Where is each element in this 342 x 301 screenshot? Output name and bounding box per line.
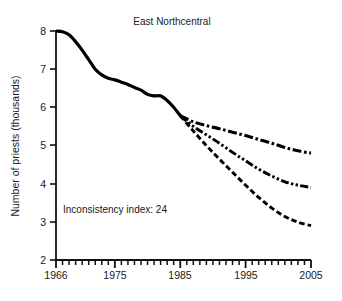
y-tick-label: 5: [40, 139, 46, 151]
y-tick-label: 6: [40, 101, 46, 113]
y-tick-label: 2: [40, 254, 46, 266]
y-tick-label: 3: [40, 216, 46, 228]
line-chart: East Northcentral Number of priests (tho…: [0, 0, 342, 301]
chart-container: East Northcentral Number of priests (tho…: [0, 0, 342, 301]
x-tick-label: 1975: [103, 269, 127, 281]
x-tick-label: 1995: [234, 269, 258, 281]
y-tick-label: 4: [40, 178, 46, 190]
chart-background: [0, 0, 342, 301]
chart-title: East Northcentral: [133, 16, 210, 27]
y-tick-label: 7: [40, 63, 46, 75]
x-tick-label: 1966: [44, 269, 68, 281]
inconsistency-index-annotation: Inconsistency index: 24: [63, 204, 167, 215]
x-tick-label: 2005: [299, 269, 323, 281]
y-axis-title: Number of priests (thousands): [9, 75, 21, 216]
x-tick-label: 1985: [168, 269, 192, 281]
y-tick-label: 8: [40, 25, 46, 37]
